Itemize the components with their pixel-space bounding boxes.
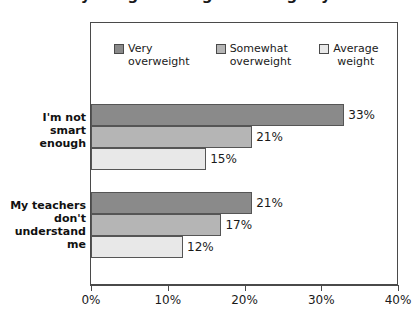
bar [91,126,252,148]
legend-label-1: Somewhat overweight [230,42,292,68]
legend-swatch-icon-0 [114,44,124,54]
bar-value-label: 17% [225,214,252,236]
category-label-0: I'm not smart enough [0,111,86,150]
category-label-1: My teachers don't understand me [0,199,86,251]
legend-swatch-icon-2 [319,44,329,54]
bar-value-label: 15% [210,148,237,170]
bar-value-label: 12% [187,236,214,258]
x-tick-4 [398,285,399,291]
chart-title-text: body image among overweight youth [48,0,370,4]
x-tick-2 [245,285,246,291]
bar [91,104,344,126]
x-tick-label-4: 40% [385,293,412,307]
bar [91,214,221,236]
chart-legend: Very overweightSomewhat overweightAverag… [110,42,390,76]
legend-item-2: Average weight [319,42,378,68]
x-tick-label-2: 20% [231,293,258,307]
legend-item-0: Very overweight [114,42,190,68]
x-tick-label-1: 10% [154,293,181,307]
legend-label-0: Very overweight [128,42,190,68]
chart-title-clipped: body image among overweight youth [0,0,419,11]
x-tick-0 [91,285,92,291]
bar [91,148,206,170]
bar-value-label: 33% [348,104,375,126]
bar [91,236,183,258]
x-tick-label-0: 0% [81,293,100,307]
bar-value-label: 21% [256,126,283,148]
bar [91,192,252,214]
legend-label-2: Average weight [333,42,378,68]
bar-chart: body image among overweight youth Very o… [0,0,419,323]
x-tick-3 [321,285,322,291]
x-tick-1 [168,285,169,291]
bar-value-label: 21% [256,192,283,214]
legend-item-1: Somewhat overweight [216,42,292,68]
x-tick-label-3: 30% [308,293,335,307]
legend-swatch-icon-1 [216,44,226,54]
